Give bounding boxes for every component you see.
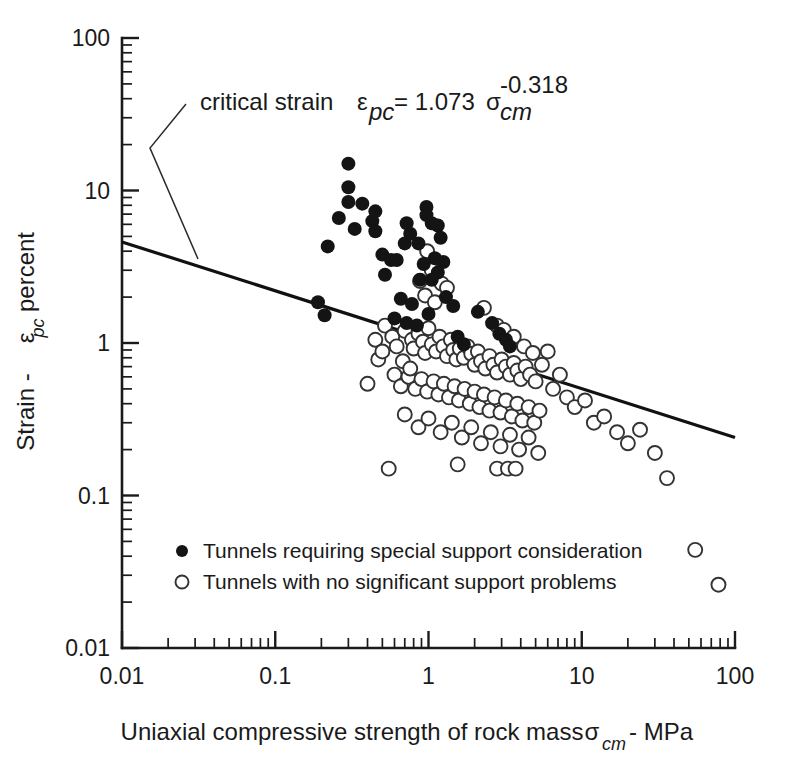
x-axis-ticks: [122, 631, 735, 648]
data-point-open: [522, 431, 536, 445]
y-tick-label: 1: [97, 330, 110, 356]
data-point-open: [509, 462, 523, 476]
data-point-open: [610, 425, 624, 439]
data-point-open: [403, 362, 417, 376]
data-point-filled: [368, 224, 382, 238]
x-axis-title-main: Uniaxial compressive strength of rock ma…: [121, 718, 584, 745]
data-point-filled: [332, 211, 346, 225]
equation-equals-coefficient: = 1.073: [394, 88, 475, 115]
y-axis-ticks: [122, 38, 139, 648]
data-point-filled: [431, 218, 445, 232]
data-point-open: [648, 446, 662, 460]
equation-epsilon: ε: [357, 88, 368, 115]
x-axis-title: Uniaxial compressive strength of rock ma…: [121, 718, 694, 754]
data-point-filled: [410, 319, 424, 333]
data-point-open: [531, 446, 545, 460]
data-point-open: [660, 471, 674, 485]
data-point-filled: [503, 339, 517, 353]
x-tick-label: 1: [422, 663, 435, 689]
legend-label-no-problems: Tunnels with no significant support prob…: [203, 570, 617, 593]
y-axis-tick-labels: 0.010.1110100: [65, 25, 110, 661]
data-point-filled: [341, 180, 355, 194]
data-point-filled: [422, 307, 436, 321]
equation-epsilon-subscript: pc: [368, 98, 394, 125]
data-point-open: [484, 425, 498, 439]
y-tick-label: 100: [72, 25, 110, 51]
data-point-open: [398, 407, 412, 421]
y-tick-label: 10: [84, 178, 110, 204]
data-point-open: [533, 404, 547, 418]
data-point-filled: [425, 273, 439, 287]
data-point-open: [633, 423, 647, 437]
x-tick-label: 0.1: [259, 663, 291, 689]
data-point-filled: [388, 311, 402, 325]
data-point-open: [375, 344, 389, 358]
data-point-filled: [390, 253, 404, 267]
chart-legend: Tunnels requiring special support consid…: [176, 539, 643, 593]
x-axis-title-symbol: σ: [585, 718, 600, 745]
data-point-open: [390, 339, 404, 353]
x-tick-label: 10: [569, 663, 595, 689]
chart-figure: 0.010.1110100 0.010.1110100 critical str…: [0, 0, 790, 773]
scatter-plot: 0.010.1110100 0.010.1110100 critical str…: [0, 0, 790, 773]
x-tick-label: 0.01: [100, 663, 145, 689]
data-point-open: [464, 420, 478, 434]
data-point-filled: [457, 337, 471, 351]
data-point-filled: [411, 236, 425, 250]
legend-marker-filled-circle: [176, 545, 188, 557]
data-point-open: [541, 344, 555, 358]
data-point-open: [526, 346, 540, 360]
data-point-filled: [311, 295, 325, 309]
data-point-open: [553, 368, 567, 382]
y-axis-title-units: percent: [12, 232, 39, 312]
legend-label-special-support: Tunnels requiring special support consid…: [203, 539, 642, 562]
annotation-leader-line: [150, 104, 198, 259]
data-point-filled: [446, 299, 460, 313]
data-point-open: [512, 443, 526, 457]
data-point-filled: [355, 197, 369, 211]
equation-sigma-subscript: cm: [500, 98, 532, 125]
data-point-filled: [405, 297, 419, 311]
data-point-filled: [417, 257, 431, 271]
equation-annotation: critical strain ε pc = 1.073 σ cm -0.318: [200, 71, 568, 125]
data-point-open: [688, 543, 702, 557]
x-tick-label: 100: [716, 663, 754, 689]
critical-strain-label: critical strain: [200, 88, 333, 115]
data-point-filled: [471, 305, 485, 319]
x-axis-title-symbol-subscript: cm: [602, 734, 626, 754]
data-point-filled: [318, 308, 332, 322]
data-point-open: [621, 436, 635, 450]
x-axis-title-units: - MPa: [629, 718, 694, 745]
data-point-open: [535, 358, 549, 372]
data-point-open: [361, 377, 375, 391]
equation-exponent: -0.318: [500, 71, 568, 98]
data-point-filled: [341, 195, 355, 209]
filled-circle-data-points: [311, 157, 517, 354]
legend-marker-open-circle: [176, 576, 189, 589]
data-point-open: [529, 374, 543, 388]
data-point-open: [578, 393, 592, 407]
data-point-open: [451, 457, 465, 471]
data-point-open: [422, 411, 436, 425]
y-tick-label: 0.1: [78, 483, 110, 509]
equation-sigma: σ: [486, 88, 501, 115]
data-point-open: [494, 439, 508, 453]
data-point-open: [597, 409, 611, 423]
y-axis-title-main: Strain -: [12, 373, 39, 450]
data-point-open: [445, 416, 459, 430]
y-axis-title: Strain - ε pc percent: [12, 232, 48, 451]
y-axis-title-symbol-subscript: pc: [28, 318, 48, 338]
data-point-filled: [341, 157, 355, 171]
data-point-open: [711, 578, 725, 592]
data-point-open: [503, 428, 517, 442]
data-point-filled: [398, 236, 412, 250]
data-point-filled: [348, 222, 362, 236]
y-tick-label: 0.01: [65, 635, 110, 661]
data-point-filled: [321, 239, 335, 253]
data-point-filled: [434, 231, 448, 245]
data-point-filled: [378, 268, 392, 282]
data-point-open: [546, 382, 560, 396]
x-axis-tick-labels: 0.010.1110100: [100, 663, 755, 689]
data-point-filled: [368, 204, 382, 218]
data-point-open: [382, 462, 396, 476]
